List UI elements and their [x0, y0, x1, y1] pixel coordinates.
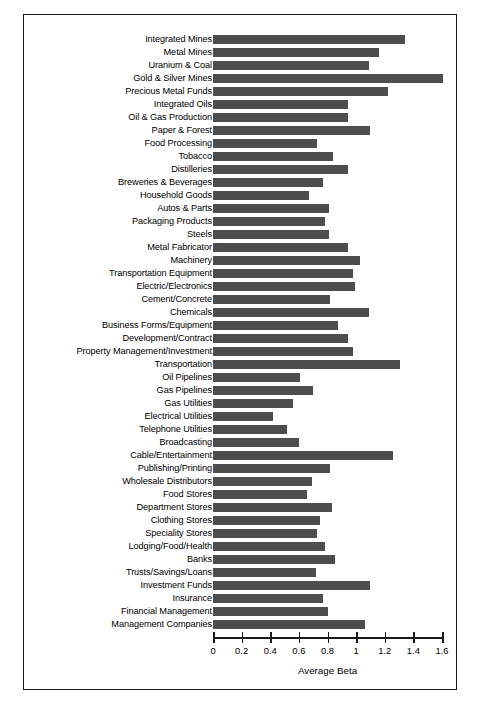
- category-label: Packaging Products: [132, 215, 212, 228]
- bar-row: Cement/Concrete: [24, 293, 458, 306]
- category-label: Banks: [187, 553, 212, 566]
- bar-row: Paper & Forest: [24, 124, 458, 137]
- bar-row: Department Stores: [24, 501, 458, 514]
- x-axis-tick: [442, 632, 444, 643]
- category-label: Transportation: [155, 358, 213, 371]
- bar-row: Machinery: [24, 254, 458, 267]
- category-label: Gold & Silver Mines: [133, 72, 212, 85]
- bar-row: Gas Utilities: [24, 397, 458, 410]
- bar: [213, 529, 317, 538]
- bar: [213, 451, 393, 460]
- bar-row: Metal Mines: [24, 46, 458, 59]
- bar-row: Steels: [24, 228, 458, 241]
- category-label: Oil & Gas Production: [128, 111, 212, 124]
- category-label: Electrical Utilities: [145, 410, 212, 423]
- bar: [213, 308, 369, 317]
- bar-row: Food Processing: [24, 137, 458, 150]
- category-label: Steels: [187, 228, 212, 241]
- category-label: Trusts/Savings/Loans: [126, 566, 212, 579]
- bar-row: Transportation Equipment: [24, 267, 458, 280]
- bar-row: Oil & Gas Production: [24, 111, 458, 124]
- bar: [213, 620, 365, 629]
- x-axis-tick-label: 1.4: [407, 645, 420, 656]
- x-axis-tick: [270, 632, 272, 643]
- category-label: Cement/Concrete: [141, 293, 212, 306]
- category-label: Oil Pipelines: [162, 371, 212, 384]
- x-axis-tick-label: 0.2: [235, 645, 248, 656]
- category-label: Machinery: [171, 254, 212, 267]
- bar: [213, 464, 330, 473]
- bar: [213, 178, 323, 187]
- category-label: Wholesale Distributors: [122, 475, 212, 488]
- bar: [213, 191, 309, 200]
- bar: [213, 373, 300, 382]
- x-axis-tick: [356, 632, 358, 643]
- category-label: Development/Contract: [123, 332, 212, 345]
- bar-row: Insurance: [24, 592, 458, 605]
- bar-row: Electric/Electronics: [24, 280, 458, 293]
- category-label: Chemicals: [170, 306, 212, 319]
- bar-row: Integrated Oils: [24, 98, 458, 111]
- bar: [213, 139, 317, 148]
- bar-row: Publishing/Printing: [24, 462, 458, 475]
- category-label: Tobacco: [178, 150, 212, 163]
- bar: [213, 87, 388, 96]
- bar: [213, 503, 332, 512]
- bar: [213, 152, 333, 161]
- bar: [213, 412, 273, 421]
- bar-row: Cable/Entertainment: [24, 449, 458, 462]
- bar-row: Breweries & Beverages: [24, 176, 458, 189]
- bar-row: Financial Management: [24, 605, 458, 618]
- bar-row: Development/Contract: [24, 332, 458, 345]
- bar-row: Business Forms/Equipment: [24, 319, 458, 332]
- bar-row: Electrical Utilities: [24, 410, 458, 423]
- bar-row: Packaging Products: [24, 215, 458, 228]
- bar-row: Speciality Stores: [24, 527, 458, 540]
- x-axis-tick: [328, 632, 330, 643]
- bar-row: Banks: [24, 553, 458, 566]
- bar-row: Precious Metal Funds: [24, 85, 458, 98]
- bar-row: Distilleries: [24, 163, 458, 176]
- category-label: Department Stores: [137, 501, 212, 514]
- bar: [213, 594, 323, 603]
- category-label: Precious Metal Funds: [125, 85, 212, 98]
- category-label: Integrated Oils: [154, 98, 212, 111]
- bar-row: Broadcasting: [24, 436, 458, 449]
- bar: [213, 35, 405, 44]
- bar: [213, 61, 369, 70]
- bar-row: Gold & Silver Mines: [24, 72, 458, 85]
- bar: [213, 542, 325, 551]
- category-label: Financial Management: [121, 605, 212, 618]
- category-label: Gas Utilities: [164, 397, 212, 410]
- bar: [213, 230, 329, 239]
- bar: [213, 360, 400, 369]
- bar: [213, 217, 325, 226]
- bar: [213, 555, 335, 564]
- bar-row: Chemicals: [24, 306, 458, 319]
- x-axis-tick-label: 1.6: [435, 645, 448, 656]
- category-label: Gas Pipelines: [157, 384, 212, 397]
- bar: [213, 425, 287, 434]
- bar: [213, 256, 360, 265]
- bar-row: Wholesale Distributors: [24, 475, 458, 488]
- x-axis-title: Average Beta: [213, 665, 442, 676]
- category-label: Management Companies: [111, 618, 212, 631]
- x-axis-tick-label: 0.4: [264, 645, 277, 656]
- category-label: Uranium & Coal: [149, 59, 212, 72]
- category-label: Household Goods: [140, 189, 212, 202]
- bar: [213, 334, 348, 343]
- category-label: Integrated Mines: [145, 33, 212, 46]
- bar: [213, 516, 320, 525]
- bar-row: Trusts/Savings/Loans: [24, 566, 458, 579]
- category-label: Publishing/Printing: [138, 462, 212, 475]
- bar: [213, 568, 316, 577]
- bar-row: Oil Pipelines: [24, 371, 458, 384]
- bar: [213, 243, 348, 252]
- x-axis-tick: [299, 632, 301, 643]
- bar-row: Telephone Utilities: [24, 423, 458, 436]
- category-label: Food Processing: [145, 137, 212, 150]
- category-label: Telephone Utilities: [139, 423, 212, 436]
- bar-row: Uranium & Coal: [24, 59, 458, 72]
- category-label: Metal Mines: [164, 46, 212, 59]
- bar-row: Metal Fabricator: [24, 241, 458, 254]
